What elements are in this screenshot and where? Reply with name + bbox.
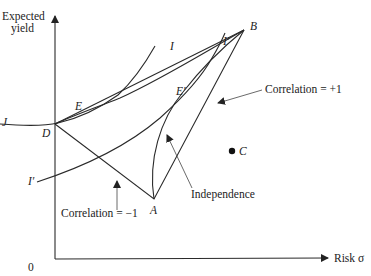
x-axis-label: Risk σ: [334, 252, 365, 264]
point-e-label: E: [74, 100, 82, 112]
x-axis: [55, 258, 328, 259]
point-e-prime-label: E′: [175, 85, 186, 97]
point-a-label: A: [149, 204, 158, 216]
annotation-independence: Independence: [191, 188, 255, 201]
y-axis-label-line2: yield: [11, 22, 34, 35]
curve-label-I-prime-left: I′: [27, 175, 35, 187]
point-c-marker: [229, 148, 235, 154]
point-c-label: C: [239, 145, 247, 157]
curve-label-I-prime-top: I′: [222, 35, 230, 47]
curve-label-J: J: [2, 116, 8, 128]
curve-label-I: I: [169, 40, 175, 52]
corr-plus-arrow: [218, 90, 262, 103]
origin-label: 0: [28, 261, 34, 273]
independence-arrow: [167, 135, 192, 188]
risk-return-diagram: Expected yield Risk σ 0 J D E E′ A B C I…: [0, 0, 371, 276]
point-d-label: D: [41, 127, 51, 139]
annotation-correlation-plus-one: Correlation = +1: [265, 83, 342, 95]
annotation-correlation-minus-one: Correlation = −1: [61, 207, 138, 219]
point-b-label: B: [250, 20, 257, 32]
correlation-plus-one-line: [55, 30, 244, 124]
indifference-curve-I-prime: [37, 33, 225, 182]
